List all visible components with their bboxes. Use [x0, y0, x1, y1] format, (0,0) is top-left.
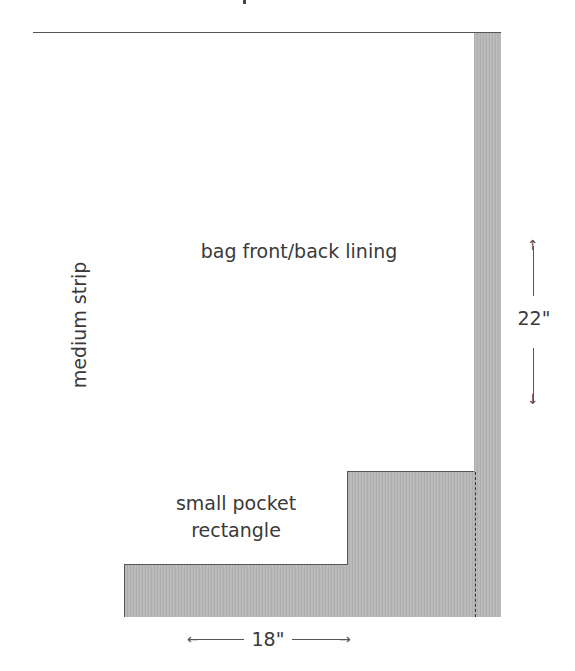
- pocket-label: small pocket rectangle: [124, 490, 348, 544]
- arrow-down-icon: ↓: [527, 392, 539, 406]
- arrow-right-icon: →: [339, 632, 351, 646]
- pocket-label-line1: small pocket: [124, 490, 348, 517]
- dashed-cut-line: [475, 472, 476, 617]
- bag-lining-label: bag front/back lining: [124, 238, 474, 265]
- height-dimension-line-top: [533, 246, 534, 296]
- width-dimension-label: 18": [244, 626, 292, 653]
- width-dimension-line-right: [292, 639, 346, 640]
- medium-strip-label: medium strip: [66, 262, 93, 389]
- height-dimension-label: 22": [513, 305, 555, 332]
- title-fragment: [243, 0, 246, 4]
- width-dimension-line-left: [192, 639, 244, 640]
- pocket-label-line2: rectangle: [124, 517, 348, 544]
- waste-strip-right: [473, 33, 501, 617]
